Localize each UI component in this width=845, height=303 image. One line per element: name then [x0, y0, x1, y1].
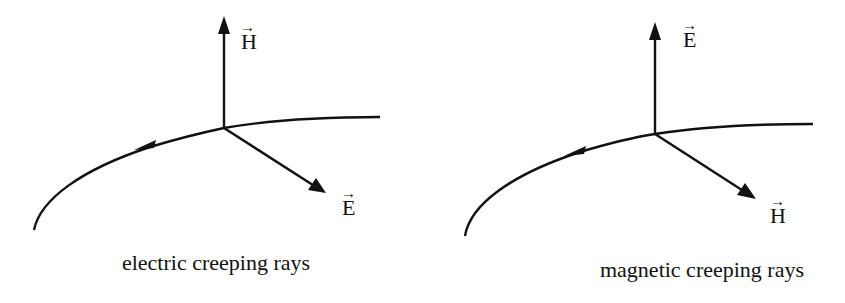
- curve-direction-arrowhead: [134, 140, 156, 150]
- vertical-vector-arrowhead: [218, 16, 230, 34]
- surface-curve: [34, 117, 380, 230]
- vertical-vector-label: E →: [682, 17, 697, 52]
- surface-curve: [465, 124, 813, 236]
- vertical-vector-arrowhead: [649, 22, 661, 40]
- curve-direction-arrowhead: [564, 146, 586, 156]
- caption-magnetic: magnetic creeping rays: [600, 257, 804, 282]
- vector-arrow-symbol: →: [341, 185, 356, 201]
- tangent-vector-line: [224, 128, 316, 187]
- panel-magnetic: E → H → magnetic creeping rays: [465, 17, 813, 282]
- tangent-vector-line: [655, 134, 745, 192]
- vector-arrow-symbol: →: [240, 19, 255, 35]
- panel-electric: H → E → electric creeping rays: [34, 16, 380, 275]
- tangent-vector-label: H →: [770, 193, 786, 228]
- vector-arrow-symbol: →: [682, 17, 697, 33]
- vertical-vector-label: H →: [240, 19, 257, 54]
- tangent-vector-arrowhead: [308, 178, 326, 193]
- creeping-rays-diagram: H → E → electric creeping rays E → H → m…: [0, 0, 845, 303]
- vector-arrow-symbol: →: [770, 193, 785, 209]
- tangent-vector-arrowhead: [737, 183, 756, 199]
- caption-electric: electric creeping rays: [122, 250, 310, 275]
- tangent-vector-label: E →: [341, 185, 356, 220]
